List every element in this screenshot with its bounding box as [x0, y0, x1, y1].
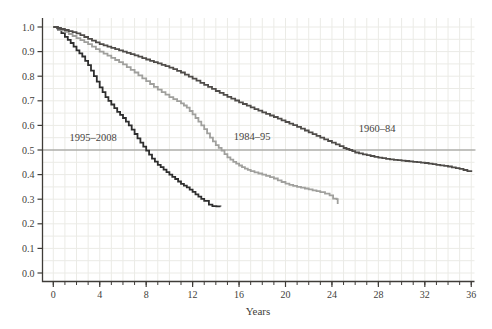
y-tick-label: 0.9 — [22, 46, 35, 57]
x-tick-label: 4 — [97, 289, 102, 300]
x-tick-label: 24 — [327, 289, 337, 300]
curve-label-1984-95: 1984–95 — [234, 131, 271, 142]
x-tick-label: 8 — [144, 289, 149, 300]
y-tick-label: 0.2 — [22, 218, 35, 229]
x-axis-ticks-and-labels: 04812162024283236 — [51, 282, 476, 300]
y-tick-label: 0.3 — [22, 194, 35, 205]
x-tick-label: 28 — [373, 289, 383, 300]
curve-label-1995-2008: 1995–2008 — [69, 132, 116, 143]
x-tick-label: 20 — [281, 289, 291, 300]
x-tick-label: 32 — [420, 289, 430, 300]
survival-curve-1984-95 — [53, 27, 337, 204]
x-axis-title: Years — [246, 305, 271, 317]
x-tick-label: 12 — [188, 289, 198, 300]
y-tick-label: 0.5 — [22, 145, 35, 156]
y-tick-label: 0.1 — [22, 243, 35, 254]
y-axis-ticks-and-labels: 0.00.10.20.30.40.50.60.70.80.91.0 — [22, 22, 43, 279]
y-tick-label: 1.0 — [22, 22, 35, 33]
curve-label-1960-84: 1960–84 — [359, 123, 397, 134]
y-tick-label: 0.6 — [22, 120, 35, 131]
x-tick-label: 0 — [51, 289, 56, 300]
x-tick-label: 16 — [234, 289, 244, 300]
survival-chart-canvas: 0.00.10.20.30.40.50.60.70.80.91.0 048121… — [0, 0, 492, 329]
y-tick-label: 0.0 — [22, 268, 35, 279]
x-tick-label: 36 — [466, 289, 476, 300]
survival-chart-figure: 0.00.10.20.30.40.50.60.70.80.91.0 048121… — [0, 0, 492, 329]
y-tick-label: 0.4 — [22, 169, 35, 180]
y-tick-label: 0.7 — [22, 95, 35, 106]
y-tick-label: 0.8 — [22, 71, 35, 82]
